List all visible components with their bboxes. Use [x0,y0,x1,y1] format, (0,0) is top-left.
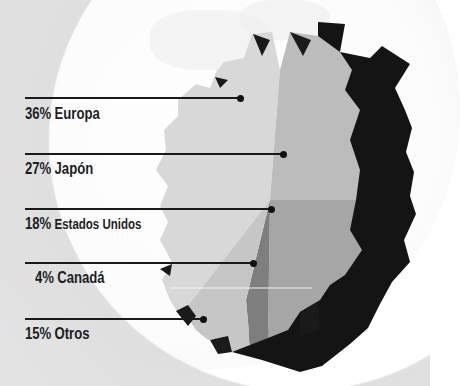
legend-pct: 27% [25,160,51,177]
leader-dot-estados-unidos [268,206,275,213]
leader-dot-canada [250,260,257,267]
leader-dot-europa [237,95,244,102]
legend-label-estados-unidos: 18%Estados Unidos [25,215,141,233]
legend-name: Estados Unidos [55,216,142,232]
legend-pct: 4% [35,269,54,286]
legend-label-otros: 15%Otros [25,325,90,343]
leader-dot-otros [200,316,207,323]
legend-label-canada: 4%Canadá [35,269,105,287]
legend-pct: 18% [25,215,51,232]
legend-name: Europa [55,105,100,122]
leader-line-otros [25,318,203,320]
legend-label-europa: 36%Europa [25,105,100,123]
leader-line-japon [25,153,283,155]
legend-label-japon: 27%Japón [25,160,93,178]
legend-name: Otros [55,325,90,342]
leader-dot-japon [280,151,287,158]
leader-line-estados-unidos [25,208,271,210]
legend-pct: 15% [25,325,51,342]
legend-name: Japón [55,160,94,177]
leader-line-europa [25,97,240,99]
legend-name: Canadá [57,269,104,286]
legend-pct: 36% [25,105,51,122]
leader-line-canada [25,262,253,264]
